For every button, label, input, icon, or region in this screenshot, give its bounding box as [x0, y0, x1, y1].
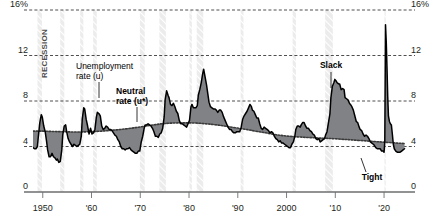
- x-tick-label-2000: 2000: [277, 203, 297, 213]
- y-tick-label-right-0: 0: [411, 181, 416, 191]
- unemployment-rate-label-line1: Unemployment: [76, 61, 134, 71]
- y-tick-label-right-8: 8: [411, 90, 416, 100]
- unemployment-rate-label-line2: rate (u): [76, 71, 104, 81]
- tight-label: Tight: [362, 172, 383, 182]
- x-tick-label-1960: '60: [86, 203, 98, 213]
- annotation-recession: RECESSION: [40, 29, 49, 78]
- y-tick-label-left-16: 16%: [10, 0, 28, 9]
- y-tick-label-left-8: 8: [23, 90, 28, 100]
- x-tick-label-1990: '90: [232, 203, 244, 213]
- x-tick-label-1970: '70: [134, 203, 146, 213]
- slack-label: Slack: [320, 60, 342, 70]
- x-tick-label-1950: 1950: [33, 203, 53, 213]
- unemployment-chart: 16%12840 16%12840 1950'60'70'80'902000'1…: [0, 0, 439, 221]
- y-tick-label-right-4: 4: [411, 136, 416, 146]
- recession-label: RECESSION: [40, 29, 49, 78]
- y-tick-label-right-12: 12: [411, 45, 421, 55]
- x-tick-label-1980: '80: [183, 203, 195, 213]
- y-tick-label-right-16: 16%: [411, 0, 429, 9]
- chart-canvas: 16%12840 16%12840 1950'60'70'80'902000'1…: [0, 0, 439, 221]
- y-tick-label-left-4: 4: [23, 136, 28, 146]
- x-tick-label-2020: '20: [378, 203, 390, 213]
- x-tick-label-2010: '10: [329, 203, 341, 213]
- neutral-rate-label-line2: rate (u*): [116, 96, 148, 106]
- y-tick-label-left-0: 0: [23, 181, 28, 191]
- y-tick-label-left-12: 12: [18, 45, 28, 55]
- neutral-rate-label-line1: Neutral: [116, 86, 145, 96]
